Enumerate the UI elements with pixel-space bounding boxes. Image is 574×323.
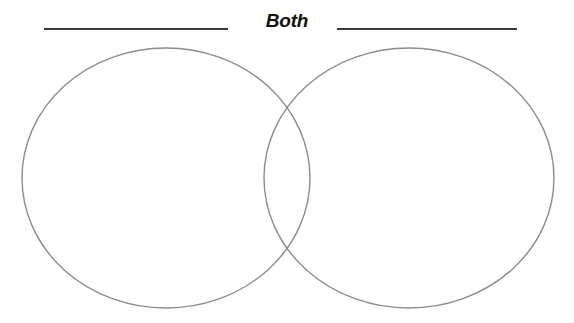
venn-diagram-graphic bbox=[0, 0, 574, 323]
venn-diagram-worksheet: Both bbox=[0, 0, 574, 323]
venn-circle-left[interactable] bbox=[22, 48, 310, 308]
venn-circle-right[interactable] bbox=[264, 48, 554, 308]
